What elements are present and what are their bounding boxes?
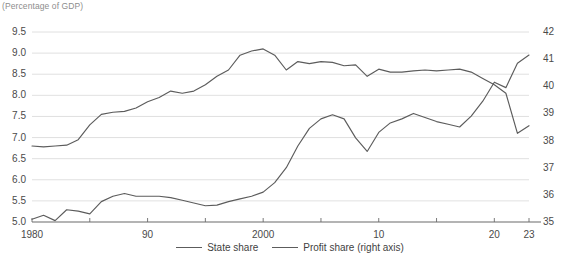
y-axis-left-tick: 8.0	[0, 90, 26, 100]
x-axis-tick: 1980	[7, 230, 57, 240]
x-axis-tick: 23	[504, 230, 554, 240]
legend-label-state-share: State share	[207, 242, 258, 253]
series-line-state-share	[32, 49, 529, 147]
legend-item-state-share: State share	[176, 242, 258, 253]
y-axis-left-tick: 5.5	[0, 196, 26, 206]
x-axis-tick: 90	[123, 230, 173, 240]
plot-area	[0, 0, 580, 265]
y-axis-left-tick: 6.5	[0, 154, 26, 164]
chart-legend: State share Profit share (right axis)	[0, 242, 580, 253]
series-lines	[32, 49, 529, 221]
legend-item-profit-share: Profit share (right axis)	[272, 242, 404, 253]
y-axis-left-tick: 5.0	[0, 217, 26, 227]
legend-swatch-state-share	[176, 247, 202, 248]
y-axis-left-tick: 6.0	[0, 175, 26, 185]
x-axis-tick: 2000	[238, 230, 288, 240]
chart-container: (Percentage of GDP) 5.05.56.06.57.07.58.…	[0, 0, 580, 265]
y-axis-right-tick: 35	[543, 217, 573, 227]
y-axis-left-tick: 9.0	[0, 48, 26, 58]
y-axis-right-tick: 36	[543, 190, 573, 200]
tickmarks	[32, 218, 529, 222]
y-axis-right-tick: 37	[543, 163, 573, 173]
legend-swatch-profit-share	[272, 247, 298, 248]
y-axis-right-tick: 39	[543, 108, 573, 118]
y-axis-right-tick: 42	[543, 27, 573, 37]
y-axis-left-tick: 7.5	[0, 111, 26, 121]
y-axis-right-tick: 38	[543, 136, 573, 146]
y-axis-right-tick: 41	[543, 54, 573, 64]
y-axis-left-tick: 9.5	[0, 27, 26, 37]
y-axis-left-tick: 8.5	[0, 69, 26, 79]
y-axis-right-tick: 40	[543, 81, 573, 91]
y-axis-left-tick: 7.0	[0, 133, 26, 143]
legend-label-profit-share: Profit share (right axis)	[303, 242, 404, 253]
x-axis-tick: 10	[354, 230, 404, 240]
